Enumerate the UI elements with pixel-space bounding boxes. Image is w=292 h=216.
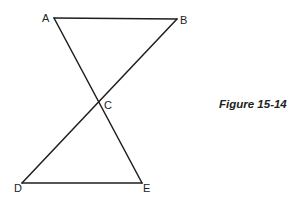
label-e: E bbox=[143, 182, 150, 194]
segment-bd bbox=[22, 19, 177, 183]
segment-ab bbox=[54, 18, 177, 19]
label-a: A bbox=[42, 12, 50, 24]
label-b: B bbox=[180, 14, 187, 26]
figure-caption: Figure 15-14 bbox=[219, 98, 287, 110]
label-c: C bbox=[104, 99, 112, 111]
segment-ae bbox=[54, 18, 142, 183]
label-d: D bbox=[14, 182, 22, 194]
